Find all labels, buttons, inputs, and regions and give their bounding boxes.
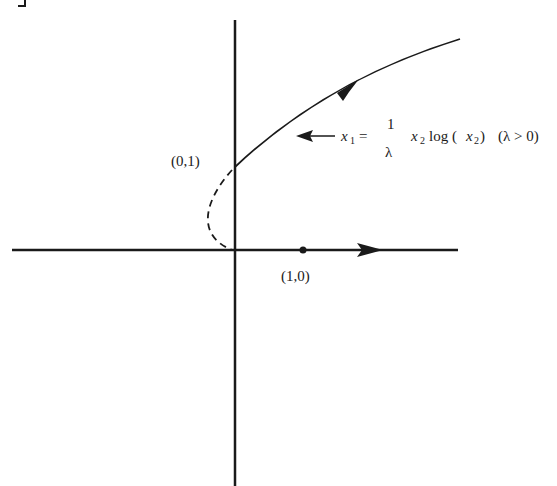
invariant-curve <box>235 39 460 167</box>
svg-text:x: x <box>340 128 348 144</box>
svg-text:1: 1 <box>350 135 355 146</box>
svg-text:x: x <box>465 128 473 144</box>
equilibrium-point <box>300 247 307 254</box>
dashed-curve <box>208 170 232 250</box>
svg-text:x: x <box>410 128 418 144</box>
svg-text:=: = <box>359 128 367 144</box>
phase-portrait-diagram: (0,1) (1,0) x 1 = 1 λ x 2 log ( x 2 ) (λ… <box>0 0 557 486</box>
svg-text:): ) <box>480 128 485 145</box>
svg-text:log (: log ( <box>429 128 457 145</box>
svg-text:2: 2 <box>420 135 425 146</box>
corner-bracket-mark <box>18 0 25 6</box>
svg-text:λ: λ <box>385 144 393 160</box>
label-0-1: (0,1) <box>171 153 200 170</box>
label-1-0: (1,0) <box>281 268 310 285</box>
svg-text:1: 1 <box>387 116 395 132</box>
svg-text:(λ > 0): (λ > 0) <box>498 128 539 145</box>
svg-text:2: 2 <box>474 135 479 146</box>
equation: x 1 = 1 λ x 2 log ( x 2 ) (λ > 0) <box>340 116 539 160</box>
